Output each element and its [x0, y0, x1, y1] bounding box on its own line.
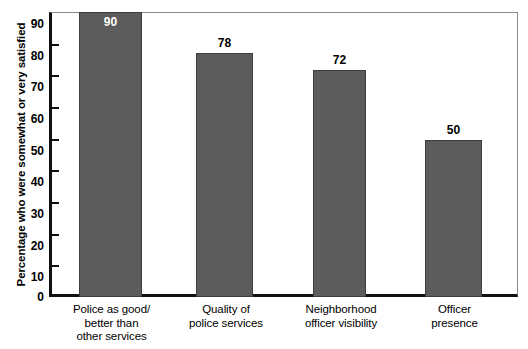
bar-value-label: 78	[196, 37, 253, 50]
bar-value-label: 50	[425, 124, 482, 137]
x-category-label-4: Officer presence	[400, 303, 509, 330]
x-category-line: officer visibility	[277, 317, 405, 331]
x-category-line: Quality of	[165, 303, 287, 317]
x-category-line: Neighborhood	[277, 303, 405, 317]
y-tick-label: 40	[4, 176, 44, 188]
y-tick-label: 50	[4, 145, 44, 157]
y-tick-label: 80	[4, 50, 44, 62]
x-category-label-3: Neighborhood officer visibility	[277, 303, 405, 330]
bar-value-label: 90	[79, 16, 142, 29]
x-category-line: presence	[400, 317, 509, 331]
x-category-label-2: Quality of police services	[165, 303, 287, 330]
y-tick-label: 0	[4, 291, 44, 303]
y-tick-label: 30	[4, 208, 44, 220]
bar-value-labels: 90 78 72 50	[49, 12, 518, 297]
y-tick-label: 20	[4, 240, 44, 252]
y-tick-label: 70	[4, 81, 44, 93]
x-category-line: Police as good/	[49, 303, 174, 317]
x-category-line: better than	[49, 317, 174, 331]
bar-value-label: 72	[313, 54, 366, 67]
y-axis-tick-labels: 90 80 70 60 50 40 30 20 10 0	[0, 12, 44, 297]
x-category-label-1: Police as good/ better than other servic…	[49, 303, 174, 344]
y-tick-label: 90	[4, 18, 44, 30]
x-category-line: Officer	[400, 303, 509, 317]
y-tick-label: 60	[4, 113, 44, 125]
x-category-line: other services	[49, 330, 174, 344]
bar-chart: Percentage who were somewhat or very sat…	[0, 0, 528, 349]
x-category-line: police services	[165, 317, 287, 331]
y-tick-label: 10	[4, 271, 44, 283]
